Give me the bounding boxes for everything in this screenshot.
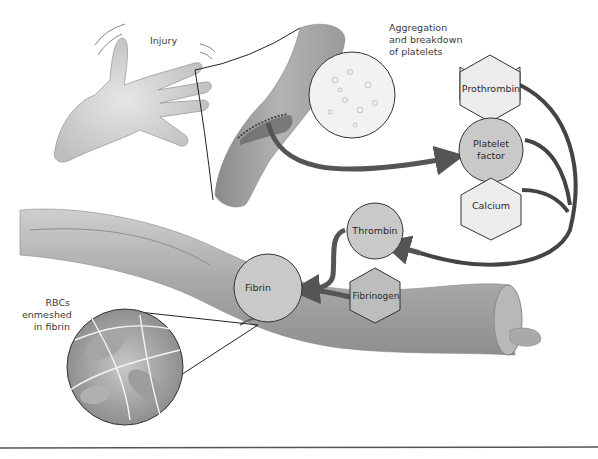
injury-label: Injury — [150, 35, 177, 47]
aggregation-label: Aggregation and breakdown of platelets — [389, 22, 462, 58]
fibrin-connectors — [305, 230, 350, 297]
fibrinogen-label: Fibrinogen — [352, 290, 399, 302]
rbc-magnifier — [67, 309, 258, 425]
thrombin-label: Thrombin — [352, 225, 397, 237]
clotting-diagram-canvas — [0, 0, 598, 459]
callout-line — [195, 28, 300, 70]
rbcs-label: RBCs enmeshed in fibrin — [22, 297, 70, 333]
calcium-label: Calcium — [472, 200, 510, 212]
platelet-magnifier — [309, 52, 395, 138]
arrow-to-thrombin — [395, 246, 420, 253]
hand-illustration — [54, 24, 215, 162]
fibrin-label: Fibrin — [245, 282, 271, 294]
prothrombin-label: Prothrombin — [462, 83, 520, 95]
platelet-factor-label: Platelet factor — [473, 138, 509, 162]
bottom-rule — [0, 447, 598, 448]
